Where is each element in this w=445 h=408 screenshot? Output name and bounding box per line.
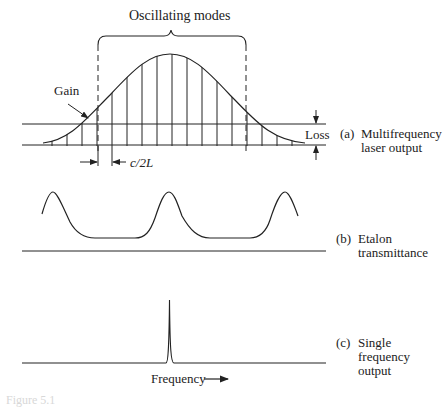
mode-spacing-markers bbox=[80, 146, 126, 166]
mode-spacing-label: c/2L bbox=[130, 156, 153, 170]
panel-b-label-line2: transmittance bbox=[358, 246, 428, 260]
longitudinal-mode-lines bbox=[52, 40, 292, 146]
panel-a-label-line2: laser output bbox=[361, 141, 422, 155]
panel-c-label-line1: Single bbox=[358, 336, 391, 350]
oscillating-modes-label: Oscillating modes bbox=[129, 9, 231, 23]
etalon-transmittance-curve bbox=[42, 192, 298, 238]
panel-c-label-line3: output bbox=[358, 364, 391, 378]
frequency-axis-label: Frequency bbox=[151, 372, 206, 386]
figure-caption: Figure 5.1 bbox=[6, 393, 55, 408]
gain-arrow-icon bbox=[68, 104, 88, 118]
loss-label: Loss bbox=[305, 128, 330, 142]
panel-c-label-line2: frequency bbox=[358, 350, 410, 364]
panel-b-label-line1: Etalon bbox=[358, 232, 392, 246]
panel-a-prefix: (a) bbox=[340, 127, 354, 141]
oscillating-modes-bracket bbox=[98, 30, 246, 45]
panel-a-label-line1: Multifrequency bbox=[361, 127, 442, 141]
panel-c-prefix: (c) bbox=[336, 336, 350, 350]
panel-b-prefix: (b) bbox=[336, 232, 351, 246]
gain-label: Gain bbox=[54, 84, 79, 98]
single-frequency-spike bbox=[22, 300, 326, 363]
